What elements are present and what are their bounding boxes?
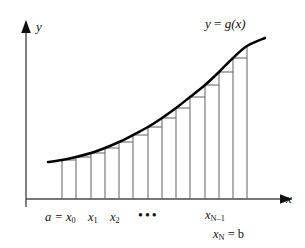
tick-label-x2-sub: 2: [116, 216, 120, 225]
riemann-sum-figure: y x y = g(x) a = x0 x1 x2 ••• xN–1 xN = …: [0, 0, 305, 248]
curve-equation-label: y = g(x): [205, 17, 246, 30]
tick-label-a-x0-sub: 0: [71, 216, 75, 225]
ellipsis-label: •••: [138, 209, 159, 223]
y-axis-label: y: [36, 20, 42, 33]
tick-label-xn-minus-1: xN–1: [205, 209, 225, 224]
tick-label-xn-minus-1-sub: N–1: [211, 214, 225, 223]
curve-label-rhs: g(x): [225, 16, 246, 31]
tick-label-a-x0-text: a = x: [45, 210, 71, 224]
tick-label-x1-sub: 1: [94, 216, 98, 225]
tick-label-a-x0: a = x0: [45, 211, 76, 226]
tick-label-xn-equals-b: xN = b: [213, 228, 244, 243]
x-axis-label: x: [286, 192, 292, 205]
tick-label-xn-tail: = b: [225, 227, 245, 241]
y-axis-arrowhead-icon: [21, 20, 31, 33]
tick-label-x2: x2: [110, 211, 120, 226]
tick-label-x1: x1: [88, 211, 98, 226]
